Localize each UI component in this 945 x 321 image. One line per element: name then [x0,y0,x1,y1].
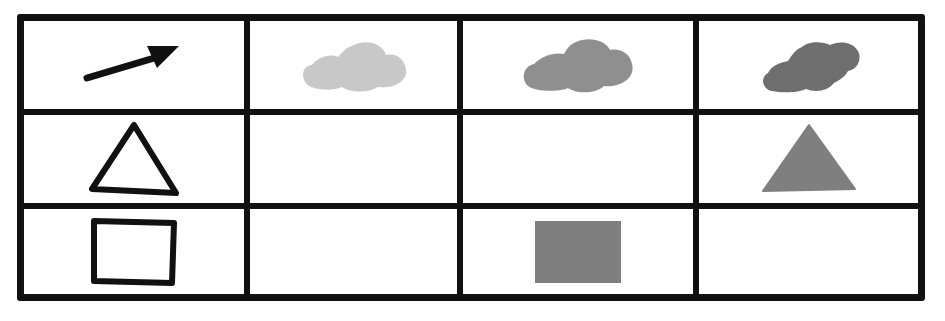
triangle-outline-icon [84,119,184,199]
triangle-filled-icon [759,123,859,195]
cell-r2-c1 [24,115,250,209]
cell-r2-c2 [250,115,463,209]
cell-r3-c4 [699,209,918,294]
cell-r1-c4 [699,21,918,115]
cloud-icon [754,35,864,95]
cell-r3-c1 [24,209,250,294]
rectangle-outline-icon [88,217,180,287]
cloud-icon [516,34,641,96]
cell-r3-c3 [463,209,699,294]
cell-r2-c4 [699,115,918,209]
square-filled-icon [533,219,623,285]
cell-r3-c2 [250,209,463,294]
arrow-icon [79,40,189,90]
cell-r2-c3 [463,115,699,209]
cloud-icon [294,35,414,95]
cell-r1-c3 [463,21,699,115]
cell-r1-c2 [250,21,463,115]
symbol-grid [17,14,925,301]
cell-r1-c1 [24,21,250,115]
